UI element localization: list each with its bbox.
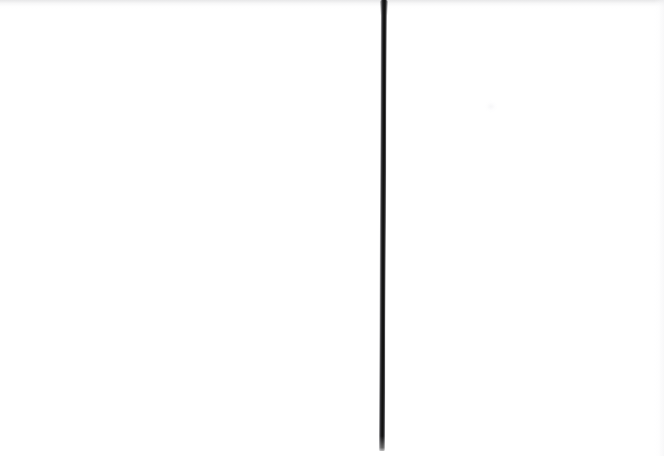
- image-canvas: [0, 0, 664, 456]
- paper-background: [0, 0, 664, 456]
